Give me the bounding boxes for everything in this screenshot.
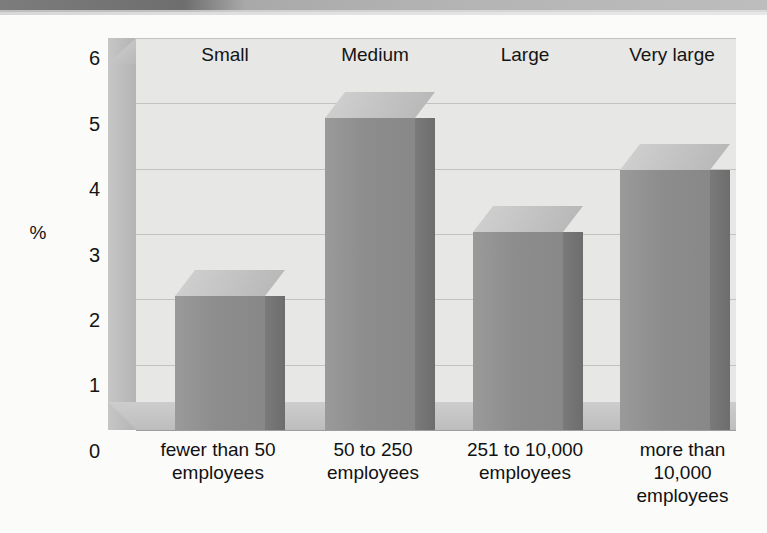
x-label-medium: 50 to 250 employees	[288, 438, 458, 484]
bar-small-side	[265, 296, 285, 430]
y-tick-label-2: 2	[60, 310, 100, 330]
band-label-medium: Medium	[300, 44, 450, 66]
bar-medium	[325, 92, 415, 430]
gridline-0-baseline	[136, 430, 736, 431]
y-tick-label-5: 5	[60, 114, 100, 134]
bar-medium-side	[415, 118, 435, 430]
bar-very-large-front	[620, 170, 710, 430]
x-label-large: 251 to 10,000 employees	[435, 438, 615, 484]
band-label-large: Large	[450, 44, 600, 66]
x-label-very-large-line2: 10,000	[600, 461, 765, 484]
y-tick-label-6: 6	[60, 48, 100, 68]
bar-very-large	[620, 144, 710, 430]
band-label-small: Small	[150, 44, 300, 66]
x-label-small-line1: fewer than 50	[128, 438, 308, 461]
y-tick-label-3: 3	[60, 245, 100, 265]
bar-chart: 6 5 4 3 2 1 0 % Small Medium Large Very …	[0, 0, 767, 533]
plot-left-wall	[108, 38, 136, 430]
x-label-medium-line2: employees	[288, 461, 458, 484]
bar-small	[175, 270, 265, 430]
gridline-5	[136, 103, 736, 104]
bar-large-front	[473, 232, 563, 430]
x-label-small: fewer than 50 employees	[128, 438, 308, 484]
bar-large-side	[563, 232, 583, 430]
gridline-6	[136, 38, 736, 39]
y-tick-label-1: 1	[60, 375, 100, 395]
x-label-large-line1: 251 to 10,000	[435, 438, 615, 461]
bar-large	[473, 206, 563, 430]
x-label-very-large-line1: more than	[600, 438, 765, 461]
bar-very-large-side	[710, 170, 730, 430]
x-label-small-line2: employees	[128, 461, 308, 484]
y-tick-label-4: 4	[60, 179, 100, 199]
band-label-very-large: Very large	[592, 44, 752, 66]
x-label-very-large-line3: employees	[600, 484, 765, 507]
bar-medium-front	[325, 118, 415, 430]
y-tick-label-0: 0	[60, 441, 100, 461]
x-label-large-line2: employees	[435, 461, 615, 484]
y-axis-title: %	[18, 222, 58, 244]
bar-small-front	[175, 296, 265, 430]
x-label-very-large: more than 10,000 employees	[600, 438, 765, 507]
x-label-medium-line1: 50 to 250	[288, 438, 458, 461]
